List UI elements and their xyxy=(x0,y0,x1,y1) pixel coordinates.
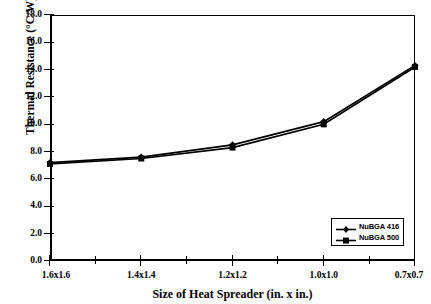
legend-item-0: NuBGA 416 xyxy=(335,221,399,232)
legend-marker-square-icon xyxy=(335,232,357,243)
y-tick-2 xyxy=(44,206,54,207)
y-tick-6 xyxy=(44,96,54,97)
thermal-resistance-chart: Thermal Resistance (°C/W) 0.02.04.06.08.… xyxy=(0,0,431,304)
x-tick-2 xyxy=(232,255,233,266)
y-tick-1 xyxy=(44,233,54,234)
legend: NuBGA 416 NuBGA 500 xyxy=(331,218,404,246)
x-tick-3 xyxy=(323,255,324,266)
y-tick-label-1: 2.0 xyxy=(0,229,42,239)
y-tick-label-9: 18.0 xyxy=(0,10,42,20)
legend-marker-diamond-icon xyxy=(335,221,357,232)
x-tick-1 xyxy=(140,255,141,266)
x-tick-label-0: 1.6x1.6 xyxy=(16,270,96,280)
y-tick-7 xyxy=(44,69,54,70)
y-tick-label-6: 12.0 xyxy=(0,92,42,102)
x-tick-label-3: 1.0x1.0 xyxy=(284,270,364,280)
legend-label-0: NuBGA 416 xyxy=(357,222,399,231)
y-tick-3 xyxy=(44,178,54,179)
x-tick-4 xyxy=(414,255,415,266)
y-tick-9 xyxy=(44,14,54,15)
y-tick-label-8: 16.0 xyxy=(0,37,42,47)
x-tick-label-1: 1.4x1.4 xyxy=(101,270,181,280)
x-axis-title: Size of Heat Spreader (in. x in.) xyxy=(50,287,415,302)
y-tick-4 xyxy=(44,151,54,152)
y-tick-label-3: 6.0 xyxy=(0,174,42,184)
x-tick-0 xyxy=(49,255,50,266)
x-tick-label-2: 1.2x1.2 xyxy=(193,270,273,280)
legend-label-1: NuBGA 500 xyxy=(357,233,399,242)
y-tick-label-7: 14.0 xyxy=(0,65,42,75)
y-tick-label-0: 0.0 xyxy=(0,256,42,266)
y-tick-label-2: 4.0 xyxy=(0,201,42,211)
x-tick-minor-1 xyxy=(186,256,187,264)
legend-item-1: NuBGA 500 xyxy=(335,232,399,243)
y-tick-5 xyxy=(44,124,54,125)
x-tick-minor-0 xyxy=(95,256,96,264)
y-tick-label-4: 8.0 xyxy=(0,147,42,157)
x-tick-label-4: 0.7x0.7 xyxy=(369,270,431,280)
y-tick-label-5: 10.0 xyxy=(0,119,42,129)
y-tick-8 xyxy=(44,42,54,43)
x-tick-minor-2 xyxy=(277,256,278,264)
x-tick-minor-3 xyxy=(369,256,370,264)
